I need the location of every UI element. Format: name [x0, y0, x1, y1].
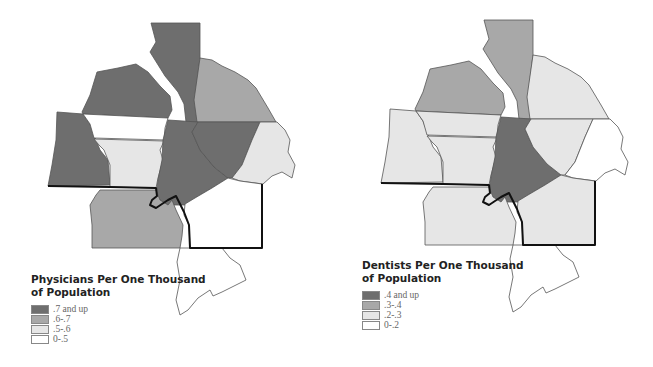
- legend-item: 0-.2: [362, 320, 562, 330]
- legend-label: .4 and up: [384, 290, 419, 300]
- legend-label: 0-.5: [53, 334, 68, 344]
- legend-swatch-dark: [31, 305, 49, 314]
- legend-swatch-medium: [31, 315, 49, 324]
- legend-item: .3-.4: [362, 300, 562, 310]
- physicians-legend-items: .7 and up .6-.7 .5-.6 0-.5: [31, 304, 231, 344]
- legend-swatch-light: [31, 325, 49, 334]
- region-northeast: [527, 55, 609, 119]
- region-central-band: [416, 111, 501, 137]
- legend-label: .6-.7: [53, 314, 70, 324]
- legend-label: .3-.4: [384, 300, 401, 310]
- physicians-legend: Physicians Per One Thousand of Populatio…: [31, 273, 231, 344]
- legend-item: 0-.5: [31, 334, 231, 344]
- region-northeast: [194, 58, 276, 122]
- legend-item: .2-.3: [362, 310, 562, 320]
- dentists-legend-title: Dentists Per One Thousand of Population: [362, 259, 562, 285]
- dentists-legend-title-line2: of Population: [362, 272, 562, 285]
- legend-item: .7 and up: [31, 304, 231, 314]
- region-northwest: [82, 64, 172, 118]
- legend-label: .2-.3: [384, 310, 401, 320]
- legend-swatch-light: [362, 311, 380, 320]
- region-central-band: [83, 114, 168, 140]
- dentists-legend-title-line1: Dentists Per One Thousand: [362, 259, 562, 272]
- physicians-legend-title-line1: Physicians Per One Thousand: [31, 273, 231, 286]
- legend-swatch-dark: [362, 291, 380, 300]
- dentists-legend: Dentists Per One Thousand of Population …: [362, 259, 562, 330]
- legend-item: .4 and up: [362, 290, 562, 300]
- region-northwest: [415, 61, 505, 115]
- legend-swatch-white: [31, 335, 49, 344]
- legend-item: .5-.6: [31, 324, 231, 334]
- legend-label: .5-.6: [53, 324, 70, 334]
- legend-label: .7 and up: [53, 304, 88, 314]
- legend-item: .6-.7: [31, 314, 231, 324]
- legend-swatch-white: [362, 321, 380, 330]
- legend-label: 0-.2: [384, 320, 399, 330]
- legend-swatch-medium: [362, 301, 380, 310]
- physicians-legend-title-line2: of Population: [31, 286, 231, 299]
- dentists-legend-items: .4 and up .3-.4 .2-.3 0-.2: [362, 290, 562, 330]
- physicians-legend-title: Physicians Per One Thousand of Populatio…: [31, 273, 231, 299]
